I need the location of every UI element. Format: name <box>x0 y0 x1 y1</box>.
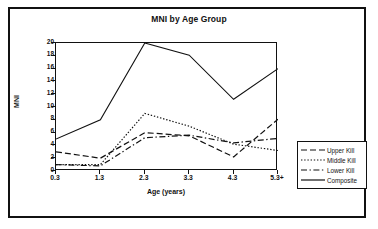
chart-legend: Upper KillMiddle KillLower KillComposite <box>297 141 367 189</box>
series-line-middle-kill <box>56 113 278 164</box>
y-axis-tick-labels: 02468101214161820 <box>30 0 54 229</box>
x-tick-label: 4.3 <box>213 174 253 181</box>
series-lines <box>56 43 278 171</box>
chart-title: MNI by Age Group <box>0 14 378 24</box>
x-tick-label: 1.3 <box>79 174 119 181</box>
x-axis-tick-labels: 0.31.32.33.34.35.3+ <box>55 174 277 186</box>
legend-item-middle-kill[interactable]: Middle Kill <box>300 155 363 165</box>
chart-figure: MNI by Age Group MNI 02468101214161820 0… <box>0 0 378 229</box>
legend-swatch-icon <box>300 166 326 174</box>
x-tick-label: 5.3+ <box>257 174 297 181</box>
legend-swatch-icon <box>300 156 326 164</box>
x-tick-label: 2.3 <box>124 174 164 181</box>
legend-label: Upper Kill <box>326 147 354 154</box>
x-axis-title: Age (years) <box>55 188 277 195</box>
legend-item-upper-kill[interactable]: Upper Kill <box>300 145 363 155</box>
legend-label: Lower Kill <box>326 167 354 174</box>
legend-item-composite[interactable]: Composite <box>300 175 363 185</box>
legend-swatch-icon <box>300 146 326 154</box>
legend-item-lower-kill[interactable]: Lower Kill <box>300 165 363 175</box>
x-tick-label: 3.3 <box>168 174 208 181</box>
legend-label: Composite <box>326 177 357 184</box>
y-axis-title: MNI <box>13 82 20 122</box>
series-line-lower-kill <box>56 135 278 166</box>
x-tick-label: 0.3 <box>35 174 75 181</box>
plot-area <box>55 42 277 170</box>
series-line-composite <box>56 43 278 139</box>
legend-swatch-icon <box>300 176 326 184</box>
legend-label: Middle Kill <box>326 157 356 164</box>
